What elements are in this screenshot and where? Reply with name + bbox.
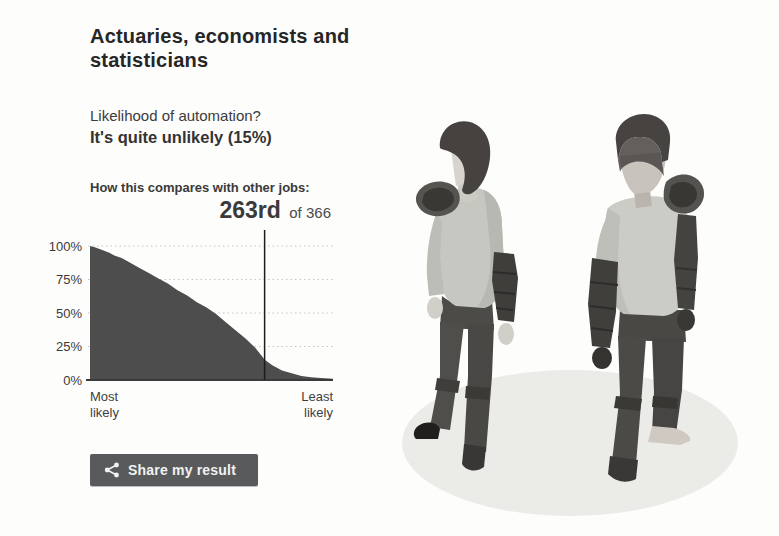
comparison-label: How this compares with other jobs: <box>90 180 310 195</box>
y-tick-label: 100% <box>49 239 83 254</box>
y-tick-label: 75% <box>56 272 82 287</box>
share-button-label: Share my result <box>128 462 236 478</box>
automation-rank-chart: 100%75%50%25%0% Most likely Least likely <box>30 225 342 421</box>
robot-job-result-page: Actuaries, economists and statisticians … <box>0 0 779 536</box>
rank-value: 263rd <box>219 197 280 223</box>
likelihood-question: Likelihood of automation? <box>90 106 261 125</box>
two-figures-illustration <box>380 96 779 536</box>
share-result-button[interactable]: Share my result <box>90 454 258 486</box>
xaxis-label-most-likely: Most likely <box>90 389 136 421</box>
likelihood-answer: It's quite unlikely (15%) <box>90 127 272 148</box>
rank-total: of 366 <box>289 204 331 221</box>
page-title: Actuaries, economists and statisticians <box>90 24 370 72</box>
xaxis-label-least-likely: Least likely <box>287 389 333 421</box>
share-icon <box>104 462 120 478</box>
y-tick-label: 0% <box>63 373 82 386</box>
rank-chart-svg: 100%75%50%25%0% <box>30 225 342 385</box>
rank-line: 263rd of 366 <box>30 197 331 224</box>
distribution-area <box>90 246 333 380</box>
y-tick-label: 25% <box>56 339 82 354</box>
figures-svg <box>380 96 779 536</box>
x-axis-labels: Most likely Least likely <box>90 389 333 421</box>
y-tick-label: 50% <box>56 306 82 321</box>
